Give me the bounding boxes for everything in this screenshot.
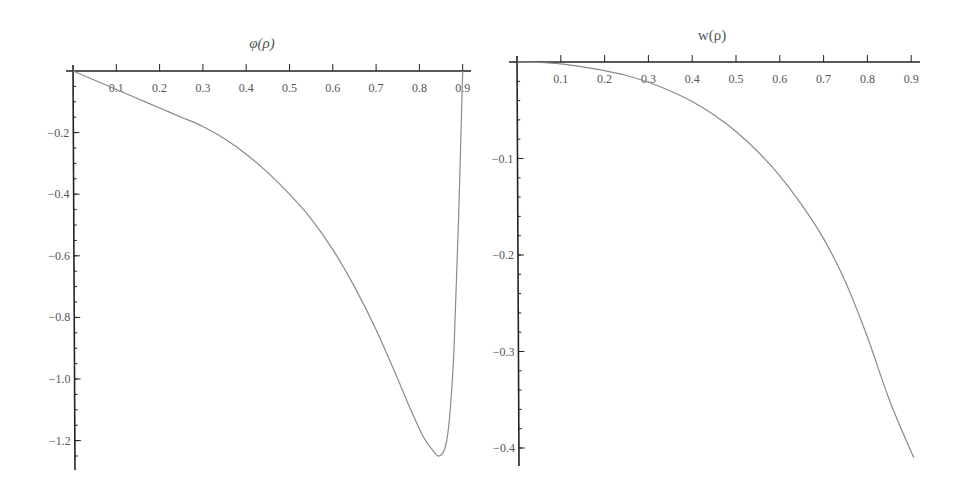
y-tick-label: −1.2 [49, 434, 71, 448]
x-tick-label: 0.2 [597, 72, 612, 86]
phi-chart: φ(ρ)0.10.20.30.40.50.60.70.80.9−0.2−0.4−… [0, 0, 480, 502]
phi-chart-svg: φ(ρ)0.10.20.30.40.50.60.70.80.9−0.2−0.4−… [0, 0, 480, 502]
x-tick-label: 0.6 [325, 81, 340, 95]
x-tick-label: 0.5 [729, 72, 744, 86]
w-chart: w(ρ)0.10.20.30.40.50.60.70.80.9−0.1−0.2−… [480, 0, 958, 502]
y-tick-label: −0.4 [48, 187, 70, 201]
series-line [517, 62, 914, 457]
x-tick-label: 0.7 [816, 72, 831, 86]
y-axis [517, 56, 519, 466]
x-tick-label: 0.4 [239, 81, 254, 95]
y-tick-label: −0.1 [492, 152, 514, 166]
x-tick-label: 0.8 [860, 72, 875, 86]
x-tick-label: 0.5 [282, 81, 297, 95]
y-axis [73, 65, 75, 470]
y-tick-label: −0.2 [492, 248, 514, 262]
chart-title: w(ρ) [698, 27, 726, 44]
x-tick-label: 0.8 [412, 81, 427, 95]
x-tick-label: 0.3 [195, 81, 210, 95]
x-tick-label: 0.7 [369, 81, 384, 95]
x-tick-label: 0.1 [553, 72, 568, 86]
x-tick-label: 0.9 [904, 72, 919, 86]
x-tick-label: 0.1 [109, 81, 124, 95]
y-tick-label: −0.2 [48, 126, 70, 140]
y-tick-label: −0.8 [48, 310, 70, 324]
series-line [73, 71, 463, 456]
y-tick-label: −1.0 [49, 372, 71, 386]
x-tick-label: 0.4 [685, 72, 700, 86]
y-tick-label: −0.3 [493, 345, 515, 359]
w-chart-svg: w(ρ)0.10.20.30.40.50.60.70.80.9−0.1−0.2−… [480, 0, 958, 502]
x-tick-label: 0.2 [152, 81, 167, 95]
y-tick-label: −0.6 [48, 249, 70, 263]
y-tick-label: −0.4 [493, 441, 515, 455]
chart-title: φ(ρ) [249, 35, 275, 52]
x-tick-label: 0.6 [772, 72, 787, 86]
